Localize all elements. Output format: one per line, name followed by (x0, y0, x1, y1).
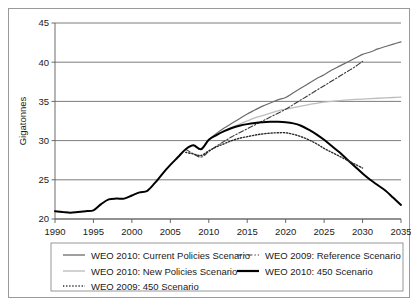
figure-frame: 202530354045 199019952000200520102015202… (8, 8, 410, 298)
chart-axes (55, 23, 401, 223)
x-tick-label: 1990 (44, 226, 65, 237)
gridlines (52, 23, 402, 219)
legend-label-0: WEO 2010: Current Policies Scenario (91, 250, 250, 261)
x-tick-label: 2035 (390, 226, 411, 237)
x-axis-tick-labels: 1990199520002005201020152020202520302035 (44, 226, 411, 237)
legend-label-2: WEO 2010: New Policies Scenario (91, 266, 237, 277)
x-tick-label: 2000 (121, 226, 142, 237)
y-tick-label: 40 (38, 57, 49, 68)
emissions-line-chart: 202530354045 199019952000200520102015202… (9, 9, 411, 299)
y-tick-label: 20 (38, 213, 49, 224)
series-line-2 (186, 61, 363, 157)
y-tick-label: 30 (38, 135, 49, 146)
x-tick-label: 2005 (160, 226, 181, 237)
x-tick-label: 1995 (83, 226, 104, 237)
legend-label-1: WEO 2009: Reference Scenario (265, 250, 401, 261)
x-tick-label: 2030 (352, 226, 373, 237)
x-tick-label: 2025 (314, 226, 335, 237)
y-tick-label: 35 (38, 96, 49, 107)
chart-legend: WEO 2010: Current Policies ScenarioWEO 2… (63, 250, 401, 292)
legend-label-3: WEO 2010: 450 Scenario (265, 266, 373, 277)
data-series (55, 42, 401, 213)
legend-label-4: WEO 2009: 450 Scenario (91, 281, 199, 292)
x-tick-label: 2020 (275, 226, 296, 237)
series-line-0 (193, 42, 401, 150)
y-axis-title: Gigatonnes (17, 96, 28, 145)
y-tick-label: 25 (38, 174, 49, 185)
x-tick-label: 2015 (237, 226, 258, 237)
y-tick-label: 45 (38, 17, 49, 28)
y-axis-tick-labels: 202530354045 (38, 17, 49, 224)
series-line-3 (55, 122, 401, 213)
x-tick-label: 2010 (198, 226, 219, 237)
